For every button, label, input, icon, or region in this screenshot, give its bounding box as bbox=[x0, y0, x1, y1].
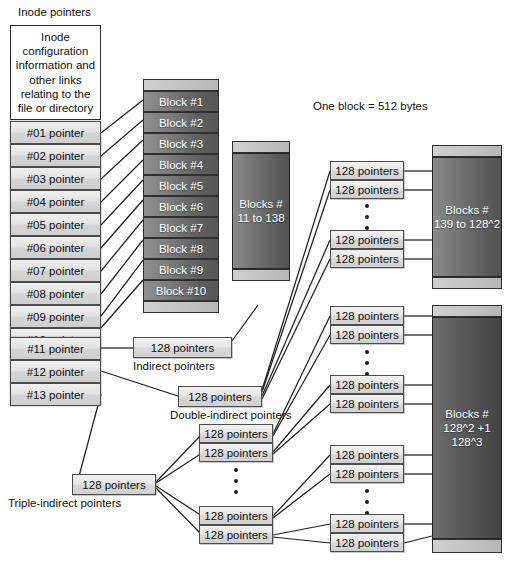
indirect-block-cap-bottom bbox=[232, 269, 290, 281]
pointer-box-label: 128 pointers bbox=[335, 518, 398, 530]
block-label: Block #10 bbox=[156, 285, 207, 297]
inode-pointer-row-3[interactable]: #03 pointer bbox=[10, 167, 101, 190]
direct-block-4[interactable]: Block #4 bbox=[143, 154, 219, 175]
pointer-box-label: 128 pointers bbox=[204, 428, 267, 440]
inode-pointer-row-2[interactable]: #02 pointer bbox=[10, 144, 101, 167]
block-label: Block #4 bbox=[159, 159, 203, 171]
tri-mid-ptr-2[interactable]: 128 pointers bbox=[199, 443, 273, 462]
direct-block-8[interactable]: Block #8 bbox=[143, 238, 219, 259]
tri-mid-ptr-3[interactable]: 128 pointers bbox=[199, 506, 273, 525]
dbl-ptr-a2[interactable]: 128 pointers bbox=[330, 180, 404, 199]
inode-pointer-label: #01 pointer bbox=[27, 127, 85, 139]
direct-block-5[interactable]: Block #5 bbox=[143, 175, 219, 196]
inode-pointer-row-13[interactable]: #13 pointer bbox=[10, 383, 101, 406]
block-column-cap-bottom bbox=[143, 301, 219, 313]
inode-pointer-label: #08 pointer bbox=[27, 288, 85, 300]
inode-pointer-label: #09 pointer bbox=[27, 311, 85, 323]
inode-pointer-row-6[interactable]: #06 pointer bbox=[10, 236, 101, 259]
block-label: Block #6 bbox=[159, 201, 203, 213]
dbl-ptr-a4[interactable]: 128 pointers bbox=[330, 249, 404, 268]
direct-block-10[interactable]: Block #10 bbox=[143, 280, 219, 301]
inode-pointer-row-9[interactable]: #09 pointer bbox=[10, 305, 101, 328]
inode-config-header: Inode configuration information and othe… bbox=[10, 25, 101, 120]
ellipsis-dots-b bbox=[365, 350, 369, 376]
ellipsis-dots-c bbox=[365, 489, 369, 515]
indirect-block-range[interactable]: Blocks # 11 to 138 bbox=[232, 153, 290, 269]
tri-ptr-b1[interactable]: 128 pointers bbox=[330, 306, 404, 325]
ellipsis-dots-a bbox=[365, 204, 369, 230]
triple-indirect-pointer-box[interactable]: 128 pointers bbox=[72, 474, 156, 495]
pointer-box-label: 128 pointers bbox=[151, 342, 214, 354]
inode-pointer-row-12[interactable]: #12 pointer bbox=[10, 360, 101, 383]
triple-block-range-line1: Blocks # bbox=[445, 407, 488, 421]
tri-ptr-c3[interactable]: 128 pointers bbox=[330, 514, 404, 533]
block-column-cap-top bbox=[143, 79, 219, 91]
double-block-cap-top bbox=[432, 145, 502, 157]
block-label: Block #3 bbox=[159, 138, 203, 150]
pointer-box-label: 128 pointers bbox=[335, 329, 398, 341]
inode-pointer-row-8[interactable]: #08 pointer bbox=[10, 282, 101, 305]
tri-ptr-c2[interactable]: 128 pointers bbox=[330, 464, 404, 483]
indirect-pointer-box[interactable]: 128 pointers bbox=[133, 337, 232, 358]
pointer-box-label: 128 pointers bbox=[335, 379, 398, 391]
tri-ptr-b4[interactable]: 128 pointers bbox=[330, 394, 404, 413]
inode-pointer-label: #06 pointer bbox=[27, 242, 85, 254]
inode-pointer-label: #12 pointer bbox=[27, 366, 85, 378]
tri-ptr-c4[interactable]: 128 pointers bbox=[330, 533, 404, 552]
pointer-box-label: 128 pointers bbox=[335, 468, 398, 480]
inode-pointer-row-11[interactable]: #11 pointer bbox=[10, 337, 101, 360]
block-label: Block #5 bbox=[159, 180, 203, 192]
direct-block-3[interactable]: Block #3 bbox=[143, 133, 219, 154]
inode-pointer-label: #02 pointer bbox=[27, 150, 85, 162]
triple-block-range-line3: 128^3 bbox=[452, 435, 483, 449]
double-indirect-block-range[interactable]: Blocks # 139 to 128^2 bbox=[432, 157, 502, 277]
pointer-box-label: 128 pointers bbox=[204, 529, 267, 541]
block-label: Block #9 bbox=[159, 264, 203, 276]
dbl-ptr-a1[interactable]: 128 pointers bbox=[330, 161, 404, 180]
inode-pointer-label: #04 pointer bbox=[27, 196, 85, 208]
block-label: Block #2 bbox=[159, 117, 203, 129]
pointer-box-label: 128 pointers bbox=[335, 398, 398, 410]
inode-pointer-label: #05 pointer bbox=[27, 219, 85, 231]
direct-block-9[interactable]: Block #9 bbox=[143, 259, 219, 280]
triple-block-cap-bottom bbox=[432, 539, 502, 553]
indirect-block-range-line1: Blocks # bbox=[239, 197, 282, 211]
pointer-box-label: 128 pointers bbox=[204, 447, 267, 459]
block-label: Block #1 bbox=[159, 96, 203, 108]
diagram-canvas: Inode pointers Inode configuration infor… bbox=[0, 0, 515, 566]
triple-block-cap-top bbox=[432, 305, 502, 317]
tri-mid-ptr-1[interactable]: 128 pointers bbox=[199, 424, 273, 443]
direct-block-2[interactable]: Block #2 bbox=[143, 112, 219, 133]
dbl-ptr-a3[interactable]: 128 pointers bbox=[330, 230, 404, 249]
inode-pointer-row-5[interactable]: #05 pointer bbox=[10, 213, 101, 236]
pointer-box-label: 128 pointers bbox=[335, 165, 398, 177]
tri-ptr-b2[interactable]: 128 pointers bbox=[330, 325, 404, 344]
double-indirect-pointer-box[interactable]: 128 pointers bbox=[178, 386, 262, 407]
inode-pointer-label: #13 pointer bbox=[27, 389, 85, 401]
pointer-box-label: 128 pointers bbox=[335, 234, 398, 246]
triple-indirect-pointers-label: Triple-indirect pointers bbox=[8, 497, 121, 510]
direct-block-1[interactable]: Block #1 bbox=[143, 91, 219, 112]
indirect-block-range-line2: 11 to 138 bbox=[237, 211, 284, 225]
pointer-box-label: 128 pointers bbox=[188, 391, 251, 403]
pointer-box-label: 128 pointers bbox=[335, 449, 398, 461]
double-block-range-line1: Blocks # bbox=[445, 203, 488, 217]
block-size-note: One block = 512 bytes bbox=[313, 100, 428, 113]
tri-ptr-b3[interactable]: 128 pointers bbox=[330, 375, 404, 394]
inode-pointer-label: #07 pointer bbox=[27, 265, 85, 277]
tri-mid-ptr-4[interactable]: 128 pointers bbox=[199, 525, 273, 544]
indirect-pointers-label: Indirect pointers bbox=[133, 360, 215, 373]
inode-pointer-row-1[interactable]: #01 pointer bbox=[10, 121, 101, 144]
direct-block-7[interactable]: Block #7 bbox=[143, 217, 219, 238]
tri-ptr-c1[interactable]: 128 pointers bbox=[330, 445, 404, 464]
inode-pointer-label: #11 pointer bbox=[27, 343, 84, 355]
inode-pointer-row-7[interactable]: #07 pointer bbox=[10, 259, 101, 282]
block-label: Block #8 bbox=[159, 243, 203, 255]
inode-pointer-row-4[interactable]: #04 pointer bbox=[10, 190, 101, 213]
direct-block-6[interactable]: Block #6 bbox=[143, 196, 219, 217]
pointer-box-label: 128 pointers bbox=[335, 310, 398, 322]
pointer-box-label: 128 pointers bbox=[82, 479, 145, 491]
triple-indirect-block-range[interactable]: Blocks # 128^2 +1 128^3 bbox=[432, 317, 502, 539]
pointer-box-label: 128 pointers bbox=[204, 510, 267, 522]
inode-pointer-label: #03 pointer bbox=[27, 173, 85, 185]
